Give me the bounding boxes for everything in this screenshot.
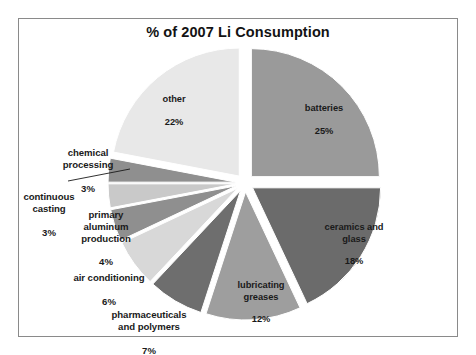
slice-label-greases-name: lubricating greases [223, 280, 299, 303]
slice-label-lubricating-greases: lubricating greases 12% [223, 269, 299, 337]
slice-label-ceramics-name: ceramics and glass [310, 222, 398, 245]
outside-label-chemical-value: 3% [48, 183, 128, 195]
slice-label-ceramics-and-glass: ceramics and glass 18% [310, 211, 398, 279]
outside-label-chemical-name: chemical processing [48, 147, 128, 171]
outside-label-casting-value: 3% [13, 227, 85, 239]
slice-label-batteries-name: batteries [281, 103, 367, 114]
slice-label-batteries: batteries 25% [281, 92, 367, 149]
slice-label-ceramics-value: 18% [310, 256, 398, 267]
slice-label-other-value: 22% [144, 117, 204, 128]
figure-canvas: % of 2007 Li Consumption batteries 25% c… [0, 0, 476, 355]
outside-label-aircon-value: 6% [57, 296, 161, 308]
slice-label-greases-value: 12% [223, 314, 299, 325]
slice-label-other: other 22% [144, 83, 204, 140]
outside-label-pharma-value: 7% [96, 345, 202, 355]
slice-label-other-name: other [144, 94, 204, 105]
outside-label-aluminum-value: 4% [69, 256, 143, 268]
outside-label-chemical-processing: chemical processing 3% [48, 135, 128, 206]
slice-label-batteries-value: 25% [281, 126, 367, 137]
